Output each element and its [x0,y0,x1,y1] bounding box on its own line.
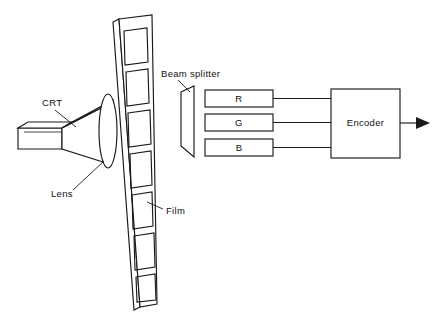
encoder-label: Encoder [347,117,384,128]
r-channel-label: R [235,93,242,104]
crt-label: CRT [42,97,62,108]
beam-splitter-prism [181,86,194,157]
output-signal [400,117,430,129]
lens-component [99,94,117,168]
crt-neck-front [18,128,62,149]
diagram-canvas: CRT Lens Film [0,0,440,326]
lens-label: Lens [51,188,73,199]
channel-connectors [273,99,331,148]
crt-funnel-front [62,107,103,162]
channel-boxes: R G B [205,90,273,156]
output-arrow-head [416,117,430,129]
beam-splitter-label: Beam splitter [161,68,220,79]
g-channel-label: G [235,117,243,128]
b-channel-label: B [236,142,243,153]
encoder-component: Encoder [331,89,400,158]
crt-film-scanner-diagram: CRT Lens Film [0,0,440,326]
film-label: Film [166,205,185,216]
lens-ellipse [99,94,117,168]
film-component [113,15,157,310]
beam-splitter-component [181,86,194,157]
lens-leader-line [73,161,104,190]
